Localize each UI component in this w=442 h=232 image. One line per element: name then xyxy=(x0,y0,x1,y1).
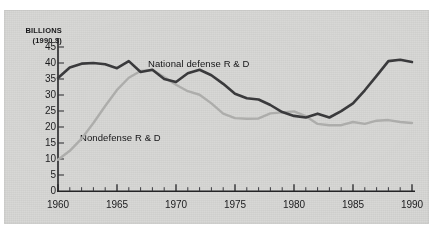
chart-figure: BILLIONS (1990 $) 45 40 35 30 25 20 15 1… xyxy=(0,0,442,232)
series-line-national-defense xyxy=(58,60,412,118)
series-line-nondefense xyxy=(58,70,412,160)
axis-lines xyxy=(57,38,415,192)
x-axis-major-ticks xyxy=(58,184,412,191)
plot-area xyxy=(0,0,442,232)
